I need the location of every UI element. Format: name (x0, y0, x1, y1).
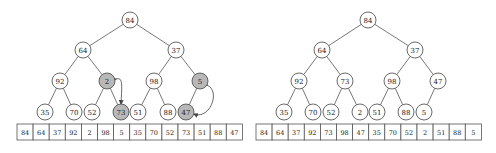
node-value: 5 (198, 78, 202, 86)
array-cell: 92 (65, 124, 81, 140)
node-value: 98 (388, 78, 397, 86)
node-value: 88 (402, 109, 411, 117)
heap-node: 70 (66, 104, 82, 120)
array-cell: 52 (401, 124, 417, 140)
array-cell: 37 (49, 124, 65, 140)
array-cell: 35 (369, 124, 385, 140)
array-value: 92 (308, 129, 316, 137)
node-value: 92 (295, 78, 304, 86)
array-cell: 37 (288, 124, 304, 140)
tree-edge (420, 56, 433, 74)
heap-node: 73 (337, 73, 353, 89)
right-heap-after: 84643792739847357052251885 8464379273984… (256, 12, 481, 140)
heap-node: 64 (314, 42, 330, 58)
node-value: 51 (373, 109, 382, 117)
swap-arrow (194, 85, 213, 115)
array-value: 52 (405, 129, 413, 137)
heap-node: 64 (75, 42, 91, 58)
node-value: 88 (164, 109, 173, 117)
array-value: 2 (87, 129, 91, 137)
node-value: 51 (134, 109, 143, 117)
right-array: 84643792739847357052251885 (256, 124, 481, 140)
array-cell: 70 (146, 124, 162, 140)
heap-node: 52 (323, 104, 339, 120)
node-value: 47 (434, 78, 443, 86)
array-value: 88 (453, 129, 461, 137)
array-value: 35 (373, 129, 381, 137)
heap-node: 35 (276, 104, 292, 120)
tree-edge (137, 24, 170, 45)
tree-edge (189, 88, 196, 104)
node-value: 64 (318, 47, 327, 55)
array-cell: 5 (465, 124, 481, 140)
heap-node: 98 (384, 73, 400, 89)
array-value: 52 (166, 129, 174, 137)
heap-node: 84 (360, 12, 376, 28)
left-nodes: 84643792298535705273518847 (37, 12, 208, 120)
array-cell: 88 (449, 124, 465, 140)
array-cell: 98 (98, 124, 114, 140)
array-value: 5 (471, 129, 475, 137)
tree-edge (157, 88, 164, 104)
node-value: 64 (79, 47, 88, 55)
heap-node: 84 (122, 12, 138, 28)
array-cell: 52 (162, 124, 178, 140)
node-value: 35 (280, 109, 289, 117)
node-value: 37 (411, 47, 420, 55)
node-value: 35 (41, 109, 50, 117)
heap-node: 88 (160, 104, 176, 120)
tree-edge (395, 88, 402, 104)
left-edges (48, 24, 196, 105)
heap-node: 37 (168, 42, 184, 58)
tree-edge (302, 88, 309, 104)
array-cell: 73 (320, 124, 336, 140)
heap-node: 88 (398, 104, 414, 120)
array-cell: 70 (385, 124, 401, 140)
array-cell: 84 (17, 124, 33, 140)
array-cell: 2 (417, 124, 433, 140)
tree-edge (304, 56, 317, 74)
tree-edge (159, 57, 172, 75)
heap-node: 92 (291, 73, 307, 89)
node-value: 52 (327, 109, 336, 117)
node-value: 70 (309, 109, 318, 117)
array-value: 47 (230, 129, 238, 137)
array-value: 92 (69, 129, 77, 137)
swap-arrow (116, 79, 122, 104)
array-cell: 88 (210, 124, 226, 140)
array-value: 37 (53, 129, 61, 137)
node-value: 92 (56, 78, 65, 86)
tree-edge (65, 56, 78, 74)
tree-edge (327, 56, 340, 74)
tree-edge (348, 88, 356, 105)
node-value: 2 (105, 78, 109, 86)
node-value: 84 (364, 17, 373, 25)
array-cell: 51 (433, 124, 449, 140)
array-value: 47 (357, 129, 365, 137)
right-nodes: 84643792739847357052251885 (276, 12, 446, 120)
array-cell: 5 (114, 124, 130, 140)
array-value: 70 (389, 129, 397, 137)
array-value: 64 (276, 129, 284, 137)
array-value: 88 (214, 129, 222, 137)
heap-node: 70 (305, 104, 321, 120)
array-value: 2 (423, 129, 427, 137)
heap-node: 98 (146, 73, 162, 89)
array-value: 51 (198, 129, 206, 137)
array-value: 98 (101, 129, 109, 137)
tree-edge (142, 88, 151, 105)
node-value: 52 (88, 109, 97, 117)
array-value: 73 (182, 129, 190, 137)
node-value: 73 (117, 109, 126, 117)
tree-edge (427, 88, 434, 104)
heap-node: 5 (416, 104, 432, 120)
heap-node: 2 (352, 104, 368, 120)
heap-node: 92 (52, 73, 68, 89)
array-cell: 51 (194, 124, 210, 140)
array-cell: 2 (81, 124, 97, 140)
array-cell: 47 (226, 124, 242, 140)
heap-node: 47 (178, 104, 194, 120)
array-value: 37 (292, 129, 300, 137)
node-value: 84 (126, 17, 135, 25)
array-value: 35 (134, 129, 142, 137)
